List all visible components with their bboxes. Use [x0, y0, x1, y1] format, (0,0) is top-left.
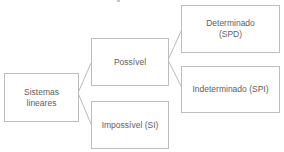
node-sistemas-lineares: Sistemas lineares: [4, 73, 79, 122]
node-label-line: (SPD): [206, 29, 255, 40]
edge-possivel-determinado: [168, 29, 182, 60]
edge-possivel-indeterminado: [168, 60, 182, 88]
node-label: Impossível (SI): [102, 120, 159, 131]
node-label: Possível: [114, 57, 146, 68]
node-label-line: Determinado: [206, 18, 255, 29]
edge-root-possivel: [78, 63, 91, 93]
node-determinado: Determinado (SPD): [181, 5, 280, 53]
node-indeterminado: Indeterminado (SPI): [181, 66, 280, 113]
node-label: Indeterminado (SPI): [192, 84, 268, 95]
node-impossivel: Impossível (SI): [91, 101, 169, 149]
node-possivel: Possível: [91, 38, 169, 86]
edge-root-impossivel: [78, 93, 91, 124]
node-label-line: lineares: [24, 98, 59, 109]
node-label-line: Sistemas: [24, 87, 59, 98]
